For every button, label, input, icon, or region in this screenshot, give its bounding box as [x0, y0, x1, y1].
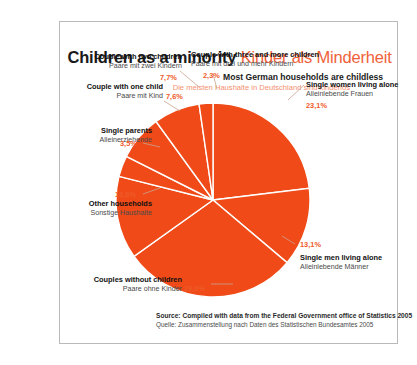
label-other-households-en: Other households [60, 199, 152, 209]
percent-other-households: 13,8% [115, 190, 136, 199]
label-couple-two-children-de: Paare mit zwei Kindern [60, 62, 182, 72]
label-single-women-en: Single women living alone [306, 80, 398, 90]
percent-single-men: 13,1% [300, 240, 321, 249]
label-couple-one-child-de: Paare mit Kind [60, 92, 163, 102]
label-couples-without-children: Couples without children Paare ohne Kind… [60, 275, 182, 294]
label-couple-three-children: Couple with three and more children Paar… [191, 50, 319, 69]
label-couple-three-children-de: Paare mit drei und mehr Kindern [191, 60, 319, 70]
pie-slice [213, 103, 309, 200]
label-couple-one-child-en: Couple with one child [60, 82, 163, 92]
percent-single-parents: 3,5% [120, 139, 137, 148]
label-single-men: Single men living alone Alleinlebende Mä… [300, 253, 382, 272]
source-german: Quelle: Zusammenstellung nach Daten des … [156, 320, 412, 329]
source-english: Source: Compiled with data from the Fede… [156, 311, 412, 320]
percent-single-women: 23,1% [306, 101, 327, 110]
chart-frame: Children as a minority Kinder als Minder… [59, 21, 398, 344]
label-single-parents: Single parents Alleinerziehende [60, 126, 152, 145]
label-other-households-de: Sonstige Haushalte [60, 209, 152, 219]
percent-couple-one-child: 7,6% [166, 92, 183, 101]
percent-couples-without-children: 29,0% [184, 284, 205, 293]
source-note: Source: Compiled with data from the Fede… [156, 311, 412, 329]
label-couple-two-children-en: Couple with two children [60, 52, 182, 62]
label-other-households: Other households Sonstige Haushalte [60, 199, 152, 218]
label-single-women-de: Alleinlebende Frauen [306, 90, 398, 100]
label-couple-one-child: Couple with one child Paare mit Kind [60, 82, 163, 101]
label-couple-three-children-en: Couple with three and more children [191, 50, 319, 60]
label-couples-without-children-en: Couples without children [60, 275, 182, 285]
percent-couple-three-children: 2,3% [203, 71, 220, 80]
label-single-women: Single women living alone Alleinlebende … [306, 80, 398, 99]
label-couples-without-children-de: Paare ohne Kinder [60, 285, 182, 295]
label-single-parents-de: Alleinerziehende [60, 136, 152, 146]
label-single-men-en: Single men living alone [300, 253, 382, 263]
label-single-men-de: Alleinlebende Männer [300, 263, 382, 273]
chart-screenshot: Children as a minority Kinder als Minder… [0, 0, 417, 365]
percent-couple-two-children: 7,7% [160, 73, 177, 82]
label-couple-two-children: Couple with two children Paare mit zwei … [60, 52, 182, 71]
label-single-parents-en: Single parents [60, 126, 152, 136]
